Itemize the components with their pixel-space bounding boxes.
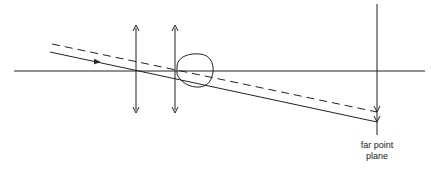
- eye-icon: [177, 54, 213, 87]
- dashed-ray: [52, 44, 377, 112]
- far-point-plane-label-line1: far point: [347, 140, 407, 151]
- far-point-plane-label-line2: plane: [347, 151, 407, 162]
- far-point-plane-label: far point plane: [347, 140, 407, 162]
- ray-arrow-icon: [94, 59, 100, 64]
- lens-1: [133, 25, 139, 113]
